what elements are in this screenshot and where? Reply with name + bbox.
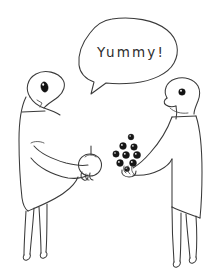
right-figure-foot-left [173, 261, 180, 267]
right-figure [122, 78, 202, 267]
right-figure-beak [164, 98, 176, 107]
berry [130, 160, 137, 167]
berry-highlight [129, 135, 131, 137]
berry [131, 144, 138, 151]
speech-bubble-text: Yummy! [96, 44, 165, 60]
berry [123, 152, 130, 159]
left-figure-arm-upper [34, 146, 88, 165]
left-figure-foot-left [23, 254, 30, 260]
left-figure-leg-right-inner [46, 204, 47, 252]
left-figure-eye-highlight [42, 83, 44, 86]
berry-highlight [132, 145, 134, 147]
berry-highlight [124, 153, 126, 155]
left-figure-chest-fold [31, 142, 44, 144]
drawing-canvas: Yummy! [0, 0, 211, 279]
berry [120, 143, 127, 150]
berry [128, 134, 134, 140]
berry [124, 166, 129, 171]
left-figure-leg-right [39, 207, 41, 253]
left-figure [19, 72, 93, 261]
right-figure-mouth [170, 108, 188, 113]
left-figure-back-contour [19, 97, 28, 211]
right-figure-leg-left [172, 207, 174, 262]
berry [117, 160, 124, 167]
berry-highlight [131, 161, 133, 163]
berry [133, 151, 140, 158]
berry-highlight [118, 161, 120, 163]
right-figure-eye [179, 89, 186, 96]
right-figure-eye-highlight [180, 90, 182, 92]
right-figure-arm-upper [133, 117, 172, 168]
right-figure-leg-left-inner [180, 213, 181, 261]
berry-highlight [114, 152, 116, 154]
left-figure-leg-left [24, 211, 26, 255]
left-figure-foot-right [40, 252, 47, 258]
left-figure-shoulder [22, 111, 45, 112]
left-figure-eye [40, 81, 49, 93]
left-figure-leg-left-inner [30, 208, 34, 254]
right-figure-arm-lower [133, 159, 172, 175]
right-figure-back-contour [196, 116, 202, 218]
left-figure-belly [28, 177, 78, 211]
right-figure-leg-right-inner [196, 216, 197, 257]
left-figure-jaw [30, 97, 60, 115]
berry-highlight [126, 168, 127, 169]
right-figure-foot-right [189, 257, 196, 263]
berry-highlight [135, 153, 137, 155]
berry [113, 151, 119, 157]
right-figure-leg-right [186, 214, 190, 258]
right-figure-shoulder [172, 116, 196, 117]
speech-bubble: Yummy! [79, 18, 177, 94]
berry-highlight [121, 144, 123, 146]
